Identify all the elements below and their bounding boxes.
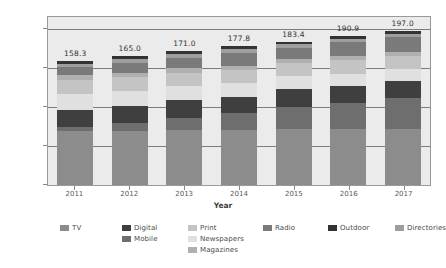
bar-segment[interactable] [112,63,148,73]
bar-segment[interactable] [112,131,148,185]
bar-stack[interactable] [166,51,202,185]
legend: TVDigitalPrintRadioOutdoorDirectories Mo… [60,224,440,257]
bar-stack[interactable] [112,56,148,185]
bar-slot: 183.4 [276,17,312,185]
bar-segment[interactable] [330,129,366,185]
legend-swatch-icon [188,225,197,231]
bar-segment[interactable] [57,94,93,110]
bar-stack[interactable] [57,61,93,185]
bar-segment[interactable] [385,81,421,97]
legend-label: Newspapers [200,235,244,243]
x-tick-label: 2011 [66,190,84,198]
bar-total-label: 177.8 [228,34,250,43]
bar-total-label: 183.4 [282,30,304,39]
bar-segment[interactable] [385,37,421,51]
bar-segment[interactable] [221,53,257,66]
bar-segment[interactable] [221,113,257,129]
legend-item[interactable]: Magazines [188,246,238,254]
legend-swatch-icon [188,236,197,242]
legend-label: Magazines [200,246,238,254]
bar-segment[interactable] [221,70,257,83]
bar-segment[interactable] [221,97,257,113]
bar-segment[interactable] [166,58,202,68]
legend-item[interactable]: Directories [395,224,446,232]
legend-swatch-icon [122,225,131,231]
bar-segment[interactable] [276,63,312,76]
legend-swatch-icon [188,247,197,253]
bar-segment[interactable] [166,130,202,185]
legend-label: Digital [134,224,157,232]
bar-segment[interactable] [166,73,202,86]
x-axis-title: Year [0,201,446,210]
bar-slot: 171.0 [166,17,202,185]
x-tick-mark [129,186,130,190]
bar-segment[interactable] [276,129,312,185]
legend-swatch-icon [395,225,404,231]
bar-segment[interactable] [330,86,366,103]
x-tick-label: 2016 [340,190,358,198]
bar-slot: 158.3 [57,17,93,185]
legend-row-1: TVDigitalPrintRadioOutdoorDirectories [60,224,440,235]
bar-segment[interactable] [330,74,366,86]
bar-segment[interactable] [330,60,366,73]
bar-segment[interactable] [385,98,421,130]
x-tick-label: 2017 [395,190,413,198]
bar-segment[interactable] [385,129,421,185]
legend-label: Mobile [134,235,158,243]
legend-swatch-icon [60,225,69,231]
x-tick-mark [239,186,240,190]
legend-label: Radio [275,224,295,232]
bar-segment[interactable] [112,91,148,107]
bar-stack[interactable] [330,36,366,185]
legend-swatch-icon [263,225,272,231]
bar-stack[interactable] [276,42,312,185]
legend-label: Outdoor [340,224,369,232]
legend-label: Directories [407,224,446,232]
bar-group: 158.3165.0171.0177.8183.4190.9197.0 [48,17,430,185]
bar-segment[interactable] [221,83,257,97]
plot-area: 158.3165.0171.0177.8183.4190.9197.0 [47,16,431,186]
legend-item[interactable]: Radio [263,224,295,232]
legend-label: TV [72,224,81,232]
x-tick-mark [74,186,75,190]
x-tick-mark [184,186,185,190]
x-tick-mark [294,186,295,190]
bar-segment[interactable] [221,130,257,185]
x-tick-label: 2014 [230,190,248,198]
legend-item[interactable]: TV [60,224,81,232]
bar-segment[interactable] [385,56,421,69]
bar-segment[interactable] [330,103,366,130]
bar-segment[interactable] [57,80,93,94]
bar-segment[interactable] [166,86,202,100]
bar-segment[interactable] [276,48,312,59]
bar-segment[interactable] [57,131,93,185]
bar-total-label: 171.0 [173,39,195,48]
bar-slot: 177.8 [221,17,257,185]
bar-stack[interactable] [221,46,257,185]
legend-item[interactable]: Mobile [122,235,158,243]
bar-stack[interactable] [385,31,421,185]
bar-segment[interactable] [166,118,202,130]
bar-segment[interactable] [166,100,202,118]
legend-item[interactable]: Outdoor [328,224,369,232]
bar-segment[interactable] [276,89,312,107]
x-tick-mark [404,186,405,190]
bar-segment[interactable] [330,42,366,56]
x-tick-mark [349,186,350,190]
bar-total-label: 158.3 [64,49,86,58]
bar-segment[interactable] [276,76,312,89]
legend-item[interactable]: Print [188,224,217,232]
bar-segment[interactable] [57,110,93,127]
bar-segment[interactable] [112,123,148,131]
bar-segment[interactable] [112,106,148,122]
bar-segment[interactable] [276,107,312,129]
bar-segment[interactable] [385,69,421,81]
legend-item[interactable]: Newspapers [188,235,244,243]
bar-slot: 197.0 [385,17,421,185]
bar-total-label: 190.9 [337,24,359,33]
legend-row-3: Magazines [60,246,440,257]
bar-segment[interactable] [57,67,93,76]
legend-item[interactable]: Digital [122,224,157,232]
bar-segment[interactable] [112,77,148,91]
legend-swatch-icon [122,236,131,242]
